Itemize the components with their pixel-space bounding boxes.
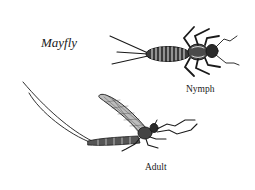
adult-tail: [23, 82, 92, 143]
nymph-antennae: [216, 36, 239, 65]
adult-label: Adult: [145, 162, 167, 172]
adult-forelegs: [157, 120, 197, 134]
nymph-label: Nymph: [186, 84, 215, 94]
adult-abdomen: [88, 136, 140, 145]
nymph-drawing: [110, 27, 239, 76]
nymph-abdomen: [146, 47, 190, 62]
diagram-title: Mayfly: [41, 35, 77, 51]
adult-drawing: [23, 82, 197, 151]
nymph-tail: [110, 36, 148, 64]
adult-wing: [99, 94, 146, 133]
mayfly-illustration: [0, 0, 255, 190]
